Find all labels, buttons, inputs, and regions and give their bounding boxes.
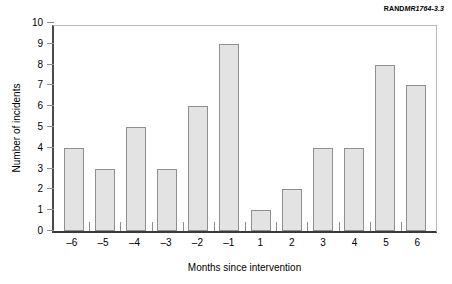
y-axis-tick-label: 2	[37, 182, 43, 195]
x-axis-tick-label: 2	[276, 237, 307, 253]
bar[interactable]	[251, 210, 271, 231]
y-axis-tick: 0	[47, 230, 54, 231]
y-axis-tick-label: 3	[37, 162, 43, 175]
x-axis-tick	[183, 222, 184, 231]
bar[interactable]	[188, 106, 208, 231]
x-axis-tick	[89, 222, 90, 231]
y-axis-tick: 5	[47, 126, 54, 127]
y-axis-tick-label: 10	[32, 16, 43, 29]
y-axis-tick-label: 6	[37, 99, 43, 112]
x-axis-title: Months since intervention	[52, 262, 437, 273]
x-axis-tick	[370, 222, 371, 231]
x-axis-tick	[120, 222, 121, 231]
x-axis-tick	[401, 222, 402, 231]
y-axis-tick-label: 7	[37, 78, 43, 91]
y-axis-tick-label: 8	[37, 58, 43, 71]
y-axis-tick: 1	[47, 209, 54, 210]
bar-slot	[370, 26, 401, 231]
y-axis-tick-label: 4	[37, 141, 43, 154]
bar[interactable]	[344, 148, 364, 231]
bar-slot	[401, 26, 432, 231]
y-axis-tick-label: 1	[37, 203, 43, 216]
bar[interactable]	[95, 169, 115, 231]
x-axis-tick	[307, 222, 308, 231]
y-axis-tick: 7	[47, 84, 54, 85]
x-axis-tick-labels: –6–5–4–3–2–1123456	[52, 237, 437, 253]
x-axis-tick-label: –3	[150, 237, 181, 253]
bar-slot	[214, 26, 245, 231]
bar-slot	[307, 26, 338, 231]
plot-area: 012345678910	[52, 25, 437, 233]
rand-logo-text: RAND	[384, 5, 405, 12]
bar-slot	[120, 26, 151, 231]
bar[interactable]	[282, 189, 302, 231]
bar-slot	[276, 26, 307, 231]
x-axis-tick	[152, 222, 153, 231]
x-axis-tick-label: 1	[245, 237, 276, 253]
x-axis-tick	[339, 222, 340, 231]
bar[interactable]	[157, 169, 177, 231]
y-axis-tick: 2	[47, 188, 54, 189]
y-axis-tick: 6	[47, 105, 54, 106]
y-axis-tick-label: 0	[37, 224, 43, 237]
bar-slot	[339, 26, 370, 231]
bar[interactable]	[313, 148, 333, 231]
y-axis-tick: 3	[47, 168, 54, 169]
figure-credit: RANDMR1764-3.3	[384, 5, 444, 12]
x-axis-tick-label: –4	[119, 237, 150, 253]
bar[interactable]	[406, 85, 426, 231]
bar-slot	[152, 26, 183, 231]
y-axis-tick: 8	[47, 64, 54, 65]
x-axis-tick-label: –1	[213, 237, 244, 253]
bar[interactable]	[126, 127, 146, 231]
x-axis-tick-label: 5	[370, 237, 401, 253]
y-axis-tick-label: 5	[37, 120, 43, 133]
x-axis-tick	[245, 222, 246, 231]
x-axis-tick-label: 3	[307, 237, 338, 253]
y-axis-tick-label: 9	[37, 37, 43, 50]
bar[interactable]	[219, 44, 239, 231]
y-axis-tick: 9	[47, 43, 54, 44]
bar-slot	[58, 26, 89, 231]
bar-series	[54, 26, 436, 231]
x-axis-tick	[276, 222, 277, 231]
bar-slot	[245, 26, 276, 231]
bar-slot	[183, 26, 214, 231]
bar-slot	[89, 26, 120, 231]
y-axis-tick: 4	[47, 147, 54, 148]
x-axis-tick-label: –6	[56, 237, 87, 253]
x-axis-tick-label: –2	[182, 237, 213, 253]
figure-number: MR1764-3.3	[404, 5, 444, 12]
x-axis-tick-label: 4	[339, 237, 370, 253]
y-axis-tick: 10	[47, 22, 54, 23]
x-axis-tick-label: 6	[402, 237, 433, 253]
x-axis-tick	[214, 222, 215, 231]
x-axis-tick-label: –5	[87, 237, 118, 253]
y-axis-title: Number of incidents	[8, 25, 24, 231]
bar[interactable]	[64, 148, 84, 231]
bar[interactable]	[375, 65, 395, 231]
